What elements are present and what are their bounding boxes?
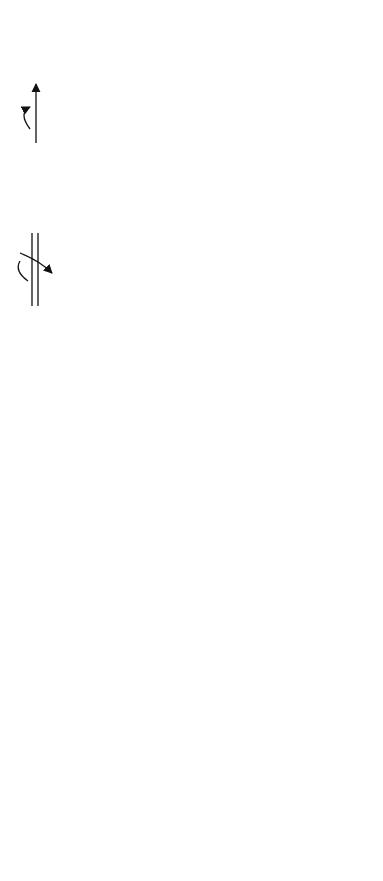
lipid-pathway-diagram <box>0 0 383 881</box>
atp-adp-curve <box>24 107 30 129</box>
pathway-arrows <box>0 0 383 881</box>
